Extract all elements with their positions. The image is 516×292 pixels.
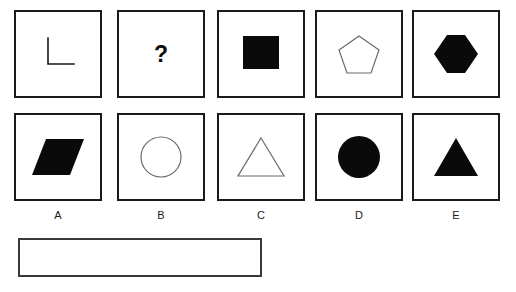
outlined-circle-icon	[136, 132, 186, 182]
matrix-cell-r1c3[interactable]	[217, 10, 305, 98]
puzzle-stage: ?	[0, 0, 516, 292]
filled-square-icon	[237, 30, 285, 78]
option-label-a: A	[14, 208, 102, 222]
matrix-cell-r2c1[interactable]	[14, 113, 102, 201]
cell-shape-container: ?	[119, 12, 203, 96]
cell-shape-container	[16, 12, 100, 96]
cell-shape-container	[317, 12, 401, 96]
cell-shape-container	[119, 115, 203, 199]
outlined-triangle-icon	[235, 133, 287, 181]
filled-circle-icon	[334, 132, 384, 182]
matrix-cell-r1c2[interactable]: ?	[117, 10, 205, 98]
filled-hexagon-icon	[431, 29, 481, 79]
cell-shape-container	[16, 115, 100, 199]
matrix-cell-r2c5[interactable]	[412, 113, 500, 201]
matrix-cell-r1c5[interactable]	[412, 10, 500, 98]
outlined-pentagon-icon	[334, 29, 384, 79]
matrix-cell-r2c2[interactable]	[117, 113, 205, 201]
matrix-cell-r2c4[interactable]	[315, 113, 403, 201]
answer-input-box[interactable]	[18, 238, 262, 277]
cell-shape-container	[219, 12, 303, 96]
filled-parallelogram-icon	[30, 133, 86, 181]
matrix-cell-r2c3[interactable]	[217, 113, 305, 201]
cell-shape-container	[414, 12, 498, 96]
filled-triangle-icon	[430, 133, 482, 181]
right-angle-line-icon	[34, 30, 82, 78]
option-label-d: D	[315, 208, 403, 222]
option-label-b: B	[117, 208, 205, 222]
option-label-e: E	[412, 208, 500, 222]
option-label-c: C	[217, 208, 305, 222]
matrix-cell-r1c4[interactable]	[315, 10, 403, 98]
question-mark-label: ?	[154, 43, 168, 66]
cell-shape-container	[414, 115, 498, 199]
cell-shape-container	[219, 115, 303, 199]
cell-shape-container	[317, 115, 401, 199]
matrix-cell-r1c1[interactable]	[14, 10, 102, 98]
